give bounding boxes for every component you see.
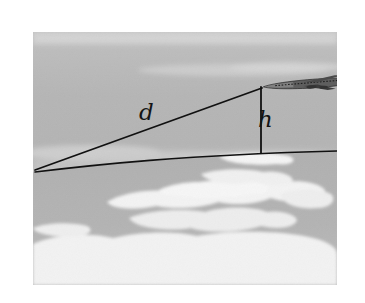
diagram-canvas: [33, 32, 337, 285]
aerial-photograph-panel: [33, 32, 337, 285]
label-height-h: h: [258, 108, 273, 131]
photo-content: [33, 32, 337, 285]
label-distance-d: d: [139, 101, 154, 124]
figure-root: d h: [0, 0, 365, 303]
